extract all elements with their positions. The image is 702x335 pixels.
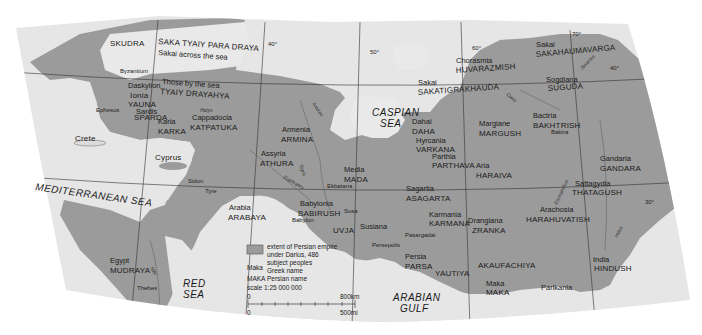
region-athura-persian: ATHURA xyxy=(260,159,294,168)
legend-persian-desc: Persian name xyxy=(267,275,307,282)
label-crete: Crete xyxy=(75,134,96,143)
region-daha-persian: DAHA xyxy=(412,127,435,136)
river-halys: Halys xyxy=(200,107,213,113)
lon-40-label: 40° xyxy=(268,41,278,47)
sea-label-caspian-2: SEA xyxy=(380,118,402,129)
region-skudra: SKUDRA xyxy=(110,39,145,48)
legend-greek-desc: Greek name xyxy=(267,267,303,274)
lon-70-label: 70° xyxy=(572,31,582,37)
region-maka-persian: MAKA xyxy=(486,288,510,297)
region-gandara-persian: GANDARA xyxy=(600,164,641,173)
region-parsa-persian: PARSA xyxy=(405,262,433,271)
city-sidon: Sidon xyxy=(188,178,203,184)
region-mada-greek: Media xyxy=(344,165,365,174)
sea-label-arabian-2: GULF xyxy=(400,303,429,314)
region-zranka-persian: ZRANKA xyxy=(472,226,506,235)
region-varkana-greek: Hyrcania xyxy=(416,136,446,145)
region-margush-greek: Margiane xyxy=(479,119,510,128)
region-arabaya-persian: ARABAYA xyxy=(228,213,266,222)
sea-label-red-2: SEA xyxy=(183,289,205,300)
region-parsa-greek: Persia xyxy=(405,252,427,261)
region-zranka-greek: Drangiana xyxy=(468,216,503,225)
region-asagarta-greek: Sagartia xyxy=(406,184,435,193)
scale-km-zero: 0 xyxy=(247,293,251,300)
region-harahuvatish-persian: HARAHUVATISH xyxy=(526,215,590,224)
region-haraiva-greek: Aria xyxy=(476,161,490,170)
city-baktra: Baktra xyxy=(551,129,569,135)
city-byzantium: Byzantium xyxy=(120,68,148,74)
legend-scale: scale 1:25 000 000 xyxy=(247,284,302,291)
lon-50-label: 50° xyxy=(370,49,380,55)
region-mudraya-persian: MUDRAYA xyxy=(110,266,151,275)
city-thebes: Thebes xyxy=(137,285,157,291)
region-yautiya: YAUTIYA xyxy=(435,269,470,278)
lon-60-label: 60° xyxy=(472,45,482,51)
region-karmana-greek: Karmania xyxy=(429,210,462,219)
region-hindush-persian: HINDUSH xyxy=(594,264,632,273)
region-ionia-greek: Ionia xyxy=(130,91,149,100)
region-maka-greek: Maka xyxy=(486,279,505,288)
region-hindush-greek: India xyxy=(593,255,610,264)
region-armina-persian: ARMINA xyxy=(281,135,314,144)
legend-extent-line2: under Darius, 486 xyxy=(267,251,319,258)
city-ekbatana: Ekbatana xyxy=(327,183,353,189)
sea-label-red-1: RED xyxy=(183,278,206,289)
region-arabaya-greek: Arabia xyxy=(229,203,252,212)
city-tyre: Tyre xyxy=(205,188,217,194)
region-asagarta-persian: ASAGARTA xyxy=(406,194,451,203)
region-haraiva-persian: HARAIVA xyxy=(476,171,512,180)
region-karka-greek: Karia xyxy=(158,117,176,126)
region-katpatuka-persian: KATPATUKA xyxy=(190,123,238,132)
region-uvja-persian: UVJA xyxy=(333,226,355,235)
region-parthava-greek: Parthia xyxy=(432,152,457,161)
city-babylon: Babylon xyxy=(292,217,314,223)
region-margush-persian: MARGUSH xyxy=(479,129,521,138)
region-babirush-greek: Babylonia xyxy=(300,199,334,208)
region-karmana-persian: KARMANA xyxy=(429,219,470,228)
legend-swatch xyxy=(247,245,263,254)
legend-greek-sample: Maka xyxy=(247,264,263,271)
lat-40-label: 40° xyxy=(610,65,620,71)
region-parikania: Parikania xyxy=(541,283,573,292)
region-sakatigrakhauda-greek: Sakai xyxy=(418,78,437,87)
lat-30-label: 30° xyxy=(645,199,655,205)
sea-label-arabian-1: ARABIAN xyxy=(392,292,441,303)
legend-persian-sample: MAKA xyxy=(247,275,266,282)
legend-extent-line1: extent of Persian empire xyxy=(267,243,338,251)
legend-subject-peoples: subject peoples xyxy=(267,259,313,267)
region-athura-greek: Assyria xyxy=(261,149,286,158)
region-karka-persian: KARKA xyxy=(158,127,187,136)
scale-km-max: 800km xyxy=(340,293,360,300)
region-harahuvatish-greek: Arachosia xyxy=(540,205,574,214)
label-cyprus: Cyprus xyxy=(155,153,182,162)
city-susa: Susa xyxy=(344,208,358,214)
city-persepolis: Persepolis xyxy=(372,242,400,248)
region-gandara-greek: Gandaria xyxy=(600,154,632,163)
region-mudraya-greek: Egypt xyxy=(110,256,130,265)
region-parthava-persian: PARTHAVA xyxy=(432,161,475,170)
scale-mi-zero: 0 xyxy=(247,309,251,316)
region-armina-greek: Armenia xyxy=(282,125,311,134)
label-daskylion: Daskylion xyxy=(128,81,161,90)
cyprus-island xyxy=(159,162,187,170)
region-bakhtrish-greek: Bactria xyxy=(533,111,557,120)
scale-mi-max: 500mi xyxy=(340,309,358,316)
region-uvja-greek: Susiana xyxy=(360,222,388,231)
region-thatagush-greek: Sattagydia xyxy=(575,179,611,188)
region-akaufachiya: AKAUFACHIYA xyxy=(478,261,536,270)
city-pasargadai: Pasargadai xyxy=(405,232,435,238)
persian-empire-map: MEDITERRANEAN SEA CASPIAN SEA RED SEA AR… xyxy=(0,0,702,335)
region-thatagush-persian: THATAGUSH xyxy=(572,188,622,197)
region-daha-greek: Dahai xyxy=(412,117,432,126)
city-ephesus: Ephesus xyxy=(96,107,119,113)
region-katpatuka-greek: Cappadocia xyxy=(192,113,233,122)
